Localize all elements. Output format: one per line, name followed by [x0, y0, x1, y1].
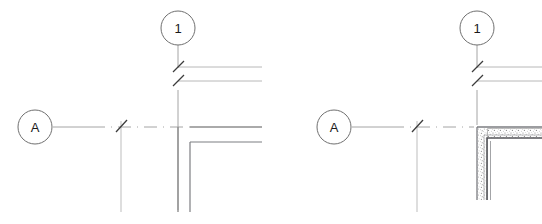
grid-bubble-label: 1	[174, 21, 181, 36]
right-dimension-tick-upper	[472, 61, 483, 72]
cad-drawing-svg: 1 A	[0, 0, 542, 224]
right-wall-corner-hatched	[477, 127, 542, 200]
right-wall-inner-thin-line	[484, 135, 542, 200]
right-grid-bubble-1[interactable]: 1	[460, 11, 494, 45]
grid-bubble-label: 1	[473, 21, 480, 36]
right-figure: 1 A	[317, 11, 542, 212]
cad-drawing-canvas: 1 A	[0, 0, 542, 224]
left-grid-intersection-tick	[116, 120, 127, 132]
right-wall-hatch-vertical	[477, 129, 487, 201]
left-dimension-tick-upper	[173, 61, 184, 72]
left-wall-corner	[178, 127, 262, 212]
left-figure: 1 A	[18, 11, 262, 212]
right-grid-intersection-tick	[412, 120, 423, 132]
right-dimension-tick-lower	[472, 75, 483, 86]
grid-bubble-label: A	[31, 120, 40, 135]
grid-bubble-label: A	[330, 120, 339, 135]
left-grid-bubble-1[interactable]: 1	[161, 11, 195, 45]
left-grid-bubble-a[interactable]: A	[18, 110, 52, 144]
right-wall-face-inner-return	[487, 138, 542, 200]
right-wall-hatch-horizontal	[477, 129, 542, 139]
left-dimension-tick-lower	[173, 75, 184, 86]
right-grid-bubble-a[interactable]: A	[317, 110, 351, 144]
